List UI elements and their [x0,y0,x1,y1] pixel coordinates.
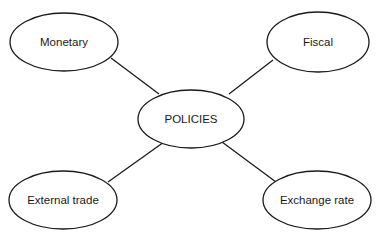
node-external-trade: External trade [9,171,117,229]
edge-policies-external-trade [108,142,164,182]
node-policies-label: POLICIES [164,113,217,125]
edge-fiscal-policies [229,60,273,94]
node-exchange-rate: Exchange rate [263,171,371,229]
node-external-trade-label: External trade [27,194,99,206]
node-monetary: Monetary [10,13,118,71]
node-fiscal: Fiscal [267,12,369,72]
node-exchange-rate-label: Exchange rate [280,194,354,206]
node-monetary-label: Monetary [40,36,88,48]
node-fiscal-label: Fiscal [303,36,333,48]
policies-mind-map: Monetary Fiscal External trade Exchange … [0,0,377,236]
edge-monetary-policies [111,58,159,94]
edge-policies-exchange-rate [222,142,276,182]
node-policies-center: POLICIES [138,90,244,148]
